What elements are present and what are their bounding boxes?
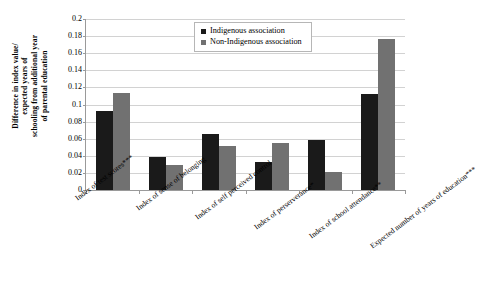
y-axis-tick-mark xyxy=(83,53,86,54)
y-axis-tick-label: 0.12 xyxy=(56,83,82,91)
legend-swatch-gray-icon xyxy=(201,40,206,45)
y-axis-tick-label: 0.02 xyxy=(56,169,82,177)
bar-group xyxy=(361,19,395,190)
y-axis-tick-mark xyxy=(83,139,86,140)
y-axis-tick-mark xyxy=(83,87,86,88)
bar-group xyxy=(149,19,183,190)
legend-label-non-indigenous: Non-Indigenous association xyxy=(210,38,302,46)
gridline xyxy=(86,53,405,54)
x-axis-category-labels: Index of test scores***Index of sense of… xyxy=(0,190,415,298)
x-axis-category-label: Index of school attendance** xyxy=(308,180,384,240)
bar-group xyxy=(308,19,342,190)
y-axis-tick-mark xyxy=(83,156,86,157)
chart-legend: Indigenous association Non-Indigenous as… xyxy=(194,22,312,52)
y-axis-tick-mark xyxy=(83,19,86,20)
y-axis-title-line-4: of parental education xyxy=(40,50,50,121)
y-axis-tick-label: 0.08 xyxy=(56,118,82,126)
bar xyxy=(361,94,378,190)
y-axis-tick-mark xyxy=(83,122,86,123)
gridline xyxy=(86,87,405,88)
y-axis-tick-label: 0.14 xyxy=(56,66,82,74)
y-axis-title-line-1: Difference in index value/ xyxy=(11,43,21,128)
y-axis-title-line-3: schooling from additional year xyxy=(30,35,40,137)
gridline xyxy=(86,139,405,140)
y-axis-tick-label: 0.04 xyxy=(56,152,82,160)
y-axis-tick-mark xyxy=(83,105,86,106)
y-axis-tick-label: 0.2 xyxy=(56,15,82,23)
y-axis-tick-mark xyxy=(83,173,86,174)
legend-label-indigenous: Indigenous association xyxy=(210,27,285,35)
y-axis-title: Difference in index value/ expected year… xyxy=(0,0,60,180)
gridline xyxy=(86,105,405,106)
bar xyxy=(272,143,289,190)
y-axis-tick-label: 0.06 xyxy=(56,135,82,143)
gridline xyxy=(86,70,405,71)
gridline xyxy=(86,156,405,157)
gridline xyxy=(86,122,405,123)
bar xyxy=(113,93,130,190)
y-axis-tick-mark xyxy=(83,36,86,37)
y-axis-title-line-2: expected years of xyxy=(20,57,30,114)
y-axis-tick-label: 0.1 xyxy=(56,101,82,109)
gridline xyxy=(86,19,405,20)
bar xyxy=(325,172,342,190)
y-axis-tick-label: 0.16 xyxy=(56,49,82,57)
legend-swatch-black-icon xyxy=(201,29,206,34)
legend-item-non-indigenous: Non-Indigenous association xyxy=(201,37,302,48)
y-axis-tick-label: 0.18 xyxy=(56,32,82,40)
bar xyxy=(378,39,395,190)
y-axis-tick-mark xyxy=(83,70,86,71)
legend-item-indigenous: Indigenous association xyxy=(201,26,302,37)
